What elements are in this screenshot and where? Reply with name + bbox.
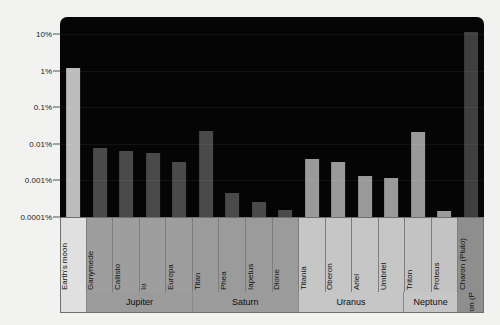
y-tick-label: 10% xyxy=(36,30,52,39)
bar-cell xyxy=(431,17,458,217)
group-label: Jupiter xyxy=(126,297,153,307)
category-axis: Earth's moonGanymedeCallistoIoEuropaTita… xyxy=(60,217,484,293)
category-label: Callisto xyxy=(114,264,122,290)
category-cell[interactable]: Europa xyxy=(166,218,193,293)
category-cell[interactable]: Umbriel xyxy=(379,218,406,293)
category-cell[interactable]: Proteus xyxy=(432,218,459,293)
bar[interactable] xyxy=(146,153,160,217)
bar-cell xyxy=(299,17,326,217)
frame-right-line xyxy=(483,217,484,312)
bar[interactable] xyxy=(93,148,107,217)
gridline xyxy=(60,180,484,181)
category-label: Ganymede xyxy=(87,251,95,290)
bar-cell xyxy=(87,17,114,217)
bar[interactable] xyxy=(464,32,478,217)
category-cell[interactable]: Titan xyxy=(193,218,220,293)
y-tick-label: 0.01% xyxy=(29,139,52,148)
bar[interactable] xyxy=(305,159,319,217)
group-axis: JupiterSaturnUranusNeptuneCharon (Pluto) xyxy=(60,292,484,312)
bar[interactable] xyxy=(384,178,398,217)
bar[interactable] xyxy=(278,210,292,217)
bar[interactable] xyxy=(225,193,239,217)
category-label: Iapetus xyxy=(247,264,255,290)
category-cell[interactable]: Earth's moon xyxy=(60,218,87,293)
bar-cell xyxy=(246,17,273,217)
category-cell[interactable]: Oberon xyxy=(326,218,353,293)
bar-cell xyxy=(166,17,193,217)
bar[interactable] xyxy=(252,202,266,217)
y-tick-mark xyxy=(53,217,60,218)
frame-bottom-line xyxy=(60,312,484,313)
category-cell[interactable]: Phea xyxy=(219,218,246,293)
y-tick-mark xyxy=(53,143,60,144)
group-cell: Saturn xyxy=(193,292,299,312)
bar-cell xyxy=(219,17,246,217)
group-label: Neptune xyxy=(414,297,448,307)
bar-cell xyxy=(113,17,140,217)
bar-series xyxy=(60,17,484,217)
category-label: Oberon xyxy=(326,263,334,290)
group-cell xyxy=(60,292,87,312)
category-label: Dione xyxy=(273,269,281,290)
bar[interactable] xyxy=(172,162,186,217)
bar-cell xyxy=(325,17,352,217)
category-label: Triton xyxy=(406,270,414,290)
category-cell[interactable]: Callisto xyxy=(113,218,140,293)
category-label: Io xyxy=(140,283,148,290)
group-label: Saturn xyxy=(232,297,259,307)
y-tick-label: 0.0001% xyxy=(20,213,52,222)
y-tick-mark xyxy=(53,34,60,35)
bar-cell xyxy=(378,17,405,217)
bar-cell xyxy=(458,17,485,217)
category-cell[interactable]: Triton xyxy=(405,218,432,293)
bar-cell xyxy=(272,17,299,217)
category-cell[interactable]: Dione xyxy=(273,218,300,293)
category-label: Europa xyxy=(167,264,175,290)
bar[interactable] xyxy=(331,162,345,217)
plot-area xyxy=(60,17,484,217)
bar[interactable] xyxy=(66,68,80,217)
y-tick-mark xyxy=(53,180,60,181)
bar-cell xyxy=(352,17,379,217)
category-label: Titan xyxy=(194,273,202,291)
y-tick-label: 0.001% xyxy=(25,176,52,185)
category-label: Ariel xyxy=(353,274,361,290)
category-label: Earth's moon xyxy=(61,243,69,290)
group-cell: Jupiter xyxy=(87,292,193,312)
frame-left-line xyxy=(60,217,61,312)
bar-cell xyxy=(193,17,220,217)
category-label: Umbriel xyxy=(380,262,388,290)
bar-cell xyxy=(405,17,432,217)
bar[interactable] xyxy=(119,151,133,217)
category-cell[interactable]: Io xyxy=(140,218,167,293)
gridline xyxy=(60,34,484,35)
group-label: Charon (Pluto) xyxy=(466,292,475,312)
category-label: Proteus xyxy=(433,262,441,290)
category-label: Titania xyxy=(300,266,308,290)
category-cell[interactable]: Iapetus xyxy=(246,218,273,293)
category-label: Phea xyxy=(220,271,228,290)
bar[interactable] xyxy=(358,176,372,217)
category-cell[interactable]: Titania xyxy=(299,218,326,293)
group-cell: Neptune xyxy=(404,292,457,312)
gridline xyxy=(60,71,484,72)
group-cell: Uranus xyxy=(299,292,405,312)
gridline xyxy=(60,144,484,145)
category-cell[interactable]: Ganymede xyxy=(87,218,114,293)
group-label: Uranus xyxy=(337,297,366,307)
category-cell[interactable]: Ariel xyxy=(352,218,379,293)
gridline xyxy=(60,107,484,108)
y-axis: 10%1%0.1%0.01%0.001%0.0001% xyxy=(0,0,60,325)
chart-root: 10%1%0.1%0.01%0.001%0.0001% Earth's moon… xyxy=(0,0,500,325)
bar-cell xyxy=(140,17,167,217)
y-tick-mark xyxy=(53,107,60,108)
category-cell[interactable]: Charon (Pluto) xyxy=(458,218,484,293)
bar-cell xyxy=(60,17,87,217)
y-tick-label: 0.1% xyxy=(34,103,52,112)
y-tick-label: 1% xyxy=(40,66,52,75)
category-label: Charon (Pluto) xyxy=(459,238,467,290)
y-tick-mark xyxy=(53,70,60,71)
group-cell: Charon (Pluto) xyxy=(458,292,484,312)
